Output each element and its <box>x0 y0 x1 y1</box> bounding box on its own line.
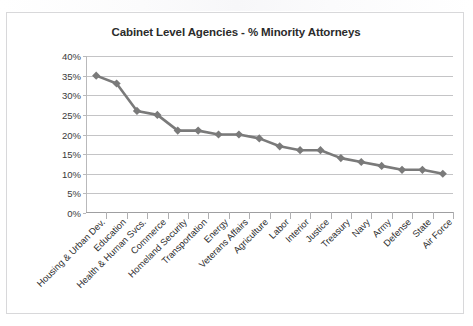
x-axis-tick-mark <box>453 212 454 219</box>
data-point-marker <box>214 130 222 138</box>
data-point-marker <box>276 142 284 150</box>
data-point-marker <box>418 166 426 174</box>
scan-artifact <box>0 0 473 11</box>
data-point-marker <box>398 166 406 174</box>
y-axis-tick-label: 40% <box>62 51 81 62</box>
y-axis-tick-label: 0% <box>67 208 81 219</box>
series-markers <box>92 72 447 178</box>
y-axis-tick-label: 25% <box>62 109 81 120</box>
y-axis-tick-label: 35% <box>62 70 81 81</box>
chart-title: Cabinet Level Agencies - % Minority Atto… <box>7 26 465 38</box>
y-axis-tick-label: 5% <box>67 188 81 199</box>
data-point-marker <box>316 146 324 154</box>
data-point-marker <box>92 72 100 80</box>
y-axis-tick-mark <box>83 213 86 214</box>
chart-container: Cabinet Level Agencies - % Minority Atto… <box>6 12 464 314</box>
y-axis-tick-label: 10% <box>62 168 81 179</box>
data-point-marker <box>296 146 304 154</box>
plot-area: 40%35%30%25%20%15%10%5%0% <box>86 56 453 213</box>
data-point-marker <box>255 134 263 142</box>
data-point-marker <box>235 130 243 138</box>
data-series-minority-attorneys <box>86 56 453 213</box>
x-axis-category-labels: Housing & Urban Dev.EducationHealth & Hu… <box>86 215 453 311</box>
data-point-marker <box>194 126 202 134</box>
series-line <box>96 76 443 174</box>
y-axis-tick-label: 30% <box>62 90 81 101</box>
y-axis-tick-label: 20% <box>62 129 81 140</box>
data-point-marker <box>337 154 345 162</box>
y-axis-tick-label: 15% <box>62 149 81 160</box>
data-point-marker <box>378 162 386 170</box>
data-point-marker <box>439 170 447 178</box>
data-point-marker <box>357 158 365 166</box>
